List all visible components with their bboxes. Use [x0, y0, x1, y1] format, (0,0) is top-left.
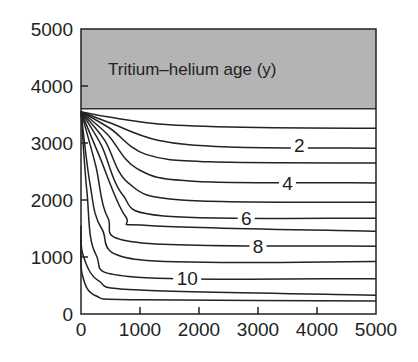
contour-label: 4	[282, 173, 293, 194]
y-tick-label: 5000	[31, 19, 73, 40]
contour-labels: 246810	[173, 134, 308, 288]
contour-line-2	[81, 112, 376, 148]
contour-lines	[81, 112, 376, 301]
contour-line-5	[81, 112, 376, 203]
contour-line-11	[81, 226, 376, 296]
y-tick-label: 2000	[31, 190, 73, 211]
x-tick-label: 4000	[296, 319, 338, 340]
y-tick-label: 4000	[31, 76, 73, 97]
contour-line-8	[81, 112, 376, 247]
band-title: Tritium–helium age (y)	[108, 60, 276, 79]
y-tick-label: 0	[62, 304, 73, 325]
contour-line-10	[81, 112, 376, 280]
y-tick-label: 3000	[31, 133, 73, 154]
x-tick-label: 3000	[237, 319, 279, 340]
x-tick-label: 2000	[178, 319, 220, 340]
x-tick-label: 1000	[119, 319, 161, 340]
contour-label: 10	[177, 268, 198, 289]
contour-chart: 246810 010002000300040005000 01000200030…	[0, 0, 418, 362]
x-axis: 010002000300040005000	[76, 307, 397, 340]
contour-line-12	[81, 240, 376, 301]
contour-label: 8	[253, 236, 264, 257]
y-axis: 010002000300040005000	[31, 19, 88, 325]
y-tick-label: 1000	[31, 247, 73, 268]
x-tick-label: 0	[76, 319, 87, 340]
x-tick-label: 5000	[355, 319, 397, 340]
contour-label: 6	[241, 208, 252, 229]
contour-line-1	[81, 112, 376, 129]
contour-label: 2	[294, 135, 305, 156]
